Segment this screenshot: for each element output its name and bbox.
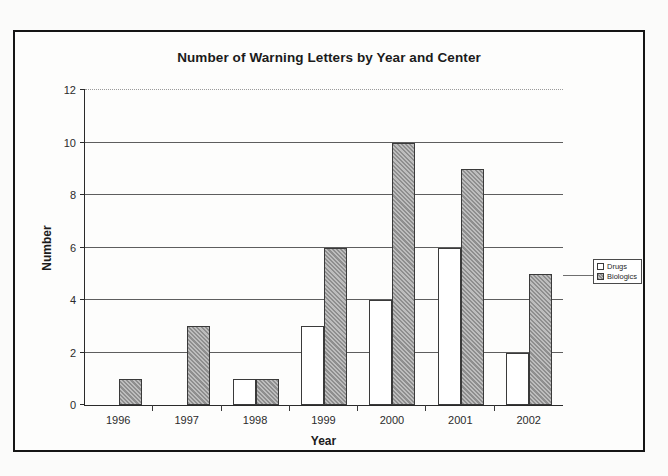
bar-biologics-2001: [461, 169, 484, 405]
x-category-divider: [357, 405, 358, 411]
bar-biologics-1996: [119, 379, 142, 405]
bar-group: [153, 90, 221, 405]
legend-swatch-biologics: [597, 273, 604, 280]
y-axis-title: Number: [40, 225, 54, 270]
legend-label: Biologics: [607, 273, 637, 281]
y-tick-label: 8: [70, 189, 76, 201]
x-tick-label: 1998: [221, 414, 289, 426]
y-tick-label: 6: [70, 242, 76, 254]
y-tick-label: 10: [64, 137, 76, 149]
bar-drugs-1999: [301, 326, 324, 405]
bar-biologics-1999: [324, 248, 347, 406]
bar-biologics-1998: [256, 379, 279, 405]
chart-title: Number of Warning Letters by Year and Ce…: [15, 50, 643, 65]
bar-group: [222, 90, 290, 405]
bar-biologics-2002: [529, 274, 552, 405]
bar-drugs-1998: [233, 379, 256, 405]
x-tick-label: 2002: [495, 414, 563, 426]
plot-area: 024681012: [84, 90, 563, 406]
y-tick-label: 0: [70, 399, 76, 411]
chart-frame: Number of Warning Letters by Year and Ce…: [13, 30, 645, 452]
bar-series-container: [85, 90, 563, 405]
bar-group: [495, 90, 563, 405]
legend-connector-line: [563, 275, 593, 276]
bar-group: [85, 90, 153, 405]
y-tick-label: 2: [70, 347, 76, 359]
x-axis-title: Year: [84, 434, 563, 448]
x-tick-label: 2001: [426, 414, 494, 426]
bar-group: [290, 90, 358, 405]
x-tick-label: 1997: [152, 414, 220, 426]
bar-group: [358, 90, 426, 405]
x-category-divider: [494, 405, 495, 411]
x-category-divider: [425, 405, 426, 411]
bar-biologics-2000: [392, 143, 415, 406]
x-category-divider: [221, 405, 222, 411]
x-tick-label: 2000: [358, 414, 426, 426]
y-tick-label: 12: [64, 84, 76, 96]
bar-biologics-1997: [187, 326, 210, 405]
bar-group: [426, 90, 494, 405]
y-tick-label: 4: [70, 294, 76, 306]
bar-drugs-2000: [369, 300, 392, 405]
legend-swatch-drugs: [597, 263, 604, 270]
bar-drugs-2001: [438, 248, 461, 406]
x-category-divider: [289, 405, 290, 411]
x-category-divider: [152, 405, 153, 411]
legend-label: Drugs: [607, 263, 627, 271]
x-tick-label: 1999: [289, 414, 357, 426]
legend-item: Biologics: [597, 273, 637, 281]
chart-legend: DrugsBiologics: [593, 259, 642, 284]
x-axis-ticks: 1996199719981999200020012002: [84, 414, 563, 426]
x-tick-label: 1996: [84, 414, 152, 426]
bar-drugs-2002: [506, 353, 529, 406]
scanned-page: Number of Warning Letters by Year and Ce…: [0, 0, 668, 476]
legend-item: Drugs: [597, 263, 637, 271]
